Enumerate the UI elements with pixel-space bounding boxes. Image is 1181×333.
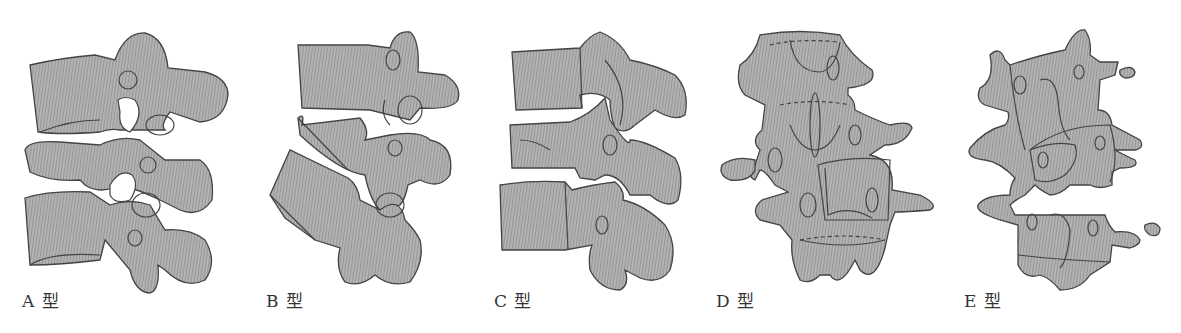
panel-type-e: E 型	[940, 0, 1181, 333]
vertebrae-illustration-d	[700, 0, 940, 333]
panel-label-a: A 型	[22, 287, 60, 312]
vertebrae-illustration-c	[480, 0, 720, 333]
panel-type-b: B 型	[240, 0, 480, 333]
panel-label-b: B 型	[266, 287, 304, 312]
panel-label-c: C 型	[494, 287, 532, 312]
panel-label-e: E 型	[964, 287, 1002, 312]
vertebrae-illustration-a	[0, 0, 240, 333]
panel-type-c: C 型	[480, 0, 720, 333]
vertebrae-illustration-b	[240, 0, 480, 333]
panel-type-a: A 型	[0, 0, 240, 333]
panel-type-d: D 型	[700, 0, 940, 333]
panel-label-d: D 型	[716, 287, 755, 312]
vertebrae-illustration-e	[940, 0, 1181, 333]
